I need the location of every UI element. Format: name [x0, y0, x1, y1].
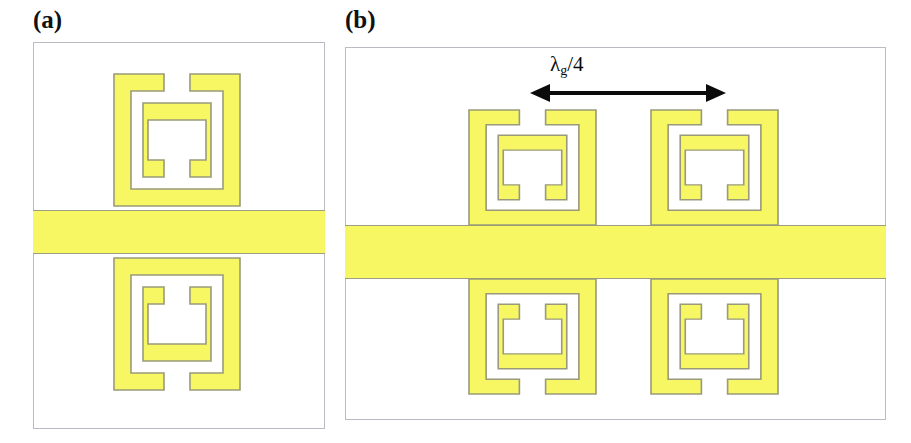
srr-a-top [114, 74, 240, 206]
srr-outer-ring [114, 74, 240, 206]
arrow-head-left [530, 84, 550, 102]
srr-inner-ring [680, 135, 749, 199]
srr-inner-ring [143, 103, 211, 177]
srr-inner-ring [498, 135, 567, 199]
panel-b-label: (b) [345, 7, 376, 32]
figure-canvas: (a) (b) λg/4 [0, 0, 911, 443]
arrow-head-right [706, 84, 726, 102]
srr-inner-ring [498, 304, 567, 368]
srr-outer-ring [469, 110, 596, 225]
panel-a-label: (a) [33, 7, 62, 32]
srr-outer-ring [651, 110, 778, 225]
panel-b: λg/4 [345, 47, 886, 420]
microstrip-line-a [33, 210, 325, 254]
panel-a [33, 42, 325, 429]
srr-b-bottom-right [651, 279, 778, 394]
dimension-arrow-double-headed [528, 80, 728, 106]
srr-outer-ring [114, 258, 240, 390]
srr-outer-ring [469, 279, 596, 394]
lambda-suffix: /4 [567, 52, 583, 76]
srr-b-top-left [469, 110, 596, 225]
srr-inner-ring [680, 304, 749, 368]
srr-b-top-right [651, 110, 778, 225]
srr-inner-ring [143, 287, 211, 361]
lambda-symbol: λ [550, 52, 560, 76]
srr-a-bottom [114, 258, 240, 390]
srr-outer-ring [651, 279, 778, 394]
microstrip-line-b [345, 225, 886, 279]
srr-b-bottom-left [469, 279, 596, 394]
lambda-g-over-4-label: λg/4 [550, 54, 584, 78]
